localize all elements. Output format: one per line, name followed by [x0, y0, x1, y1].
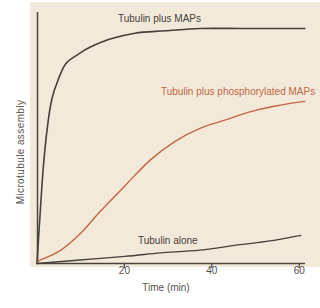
series-label-tubulin-alone: Tubulin alone [138, 235, 198, 247]
x-tick-label: 60 [294, 265, 305, 277]
x-axis-label: Time (min) [142, 282, 189, 293]
series-curve-0 [37, 28, 305, 263]
x-tick-label: 20 [119, 265, 130, 277]
series-label-tubulin-plus-phosphorylated-maps: Tubulin plus phosphorylated MAPs [161, 86, 315, 98]
x-tick-label: 40 [206, 265, 217, 277]
microtubule-assembly-figure: Microtubule assembly Tubulin plus MAPs T… [0, 0, 320, 308]
x-tick-labels: 204060 [0, 265, 320, 278]
plot-svg [0, 0, 320, 308]
series-label-tubulin-plus-maps: Tubulin plus MAPs [118, 13, 201, 25]
y-axis-label: Microtubule assembly [15, 100, 26, 205]
